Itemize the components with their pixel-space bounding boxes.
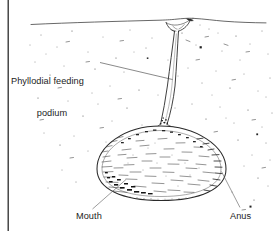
leader-line-podium xyxy=(100,63,173,80)
figure-container: Phyllodial feeding podium Mouth Anus xyxy=(0,0,279,231)
feeding-podium-stalk xyxy=(146,31,185,131)
label-anus: Anus xyxy=(230,211,251,222)
label-mouth: Mouth xyxy=(76,211,102,222)
label-podium-line2: podium xyxy=(11,108,107,119)
label-phyllodial-feeding-podium: Phyllodial feeding podium xyxy=(11,55,107,139)
label-podium-line1: Phyllodial feeding xyxy=(11,76,107,87)
body-sac xyxy=(97,126,226,201)
sediment-surface-line xyxy=(31,18,266,24)
feeding-funnel xyxy=(166,19,193,32)
leader-line-anus xyxy=(222,172,241,208)
